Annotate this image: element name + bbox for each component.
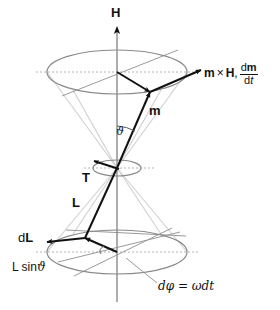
derivative-denominator-var: t <box>250 74 253 86</box>
moment-vector-top-segment <box>117 72 150 92</box>
angular-momentum-label: L <box>72 196 80 209</box>
cross-product-second: H <box>226 67 235 79</box>
derivative-denominator: dt <box>243 75 254 87</box>
cross-product-operator-icon: × <box>215 67 226 79</box>
dL-vector-symbol: L <box>25 230 33 245</box>
cross-product-first: m <box>204 67 215 79</box>
projection-prefix: L sin <box>12 260 37 274</box>
precession-figure: H m T L dL L sinϑ ϑ dφ = ωdt m × H , dm … <box>0 0 280 310</box>
dL-vector-label: dL <box>18 231 33 244</box>
moment-vector-label: m <box>149 104 161 117</box>
angular-momentum-lower-segment <box>85 238 117 252</box>
reference-axes-dashed <box>36 72 200 252</box>
projection-label: L sinϑ <box>12 261 45 273</box>
projection-angle-symbol: ϑ <box>37 260 46 274</box>
field-axis-label: H <box>111 6 120 19</box>
rotation-annotation-label: dφ = ωdt <box>158 280 214 292</box>
dL-vector <box>47 238 85 242</box>
derivative-numerator-var: m <box>247 61 257 73</box>
derivative-fraction: dm dt <box>240 62 258 86</box>
torque-vector-label: T <box>82 171 90 184</box>
cross-product-label: m × H , dm dt <box>204 61 258 85</box>
dphi-angle-arc <box>100 246 104 254</box>
cone-angle-label: ϑ <box>116 126 124 137</box>
